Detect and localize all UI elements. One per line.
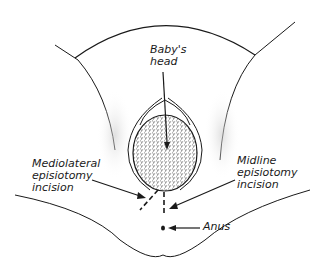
label-mediolateral-incision: Mediolateral episiotomy incision: [32, 158, 100, 194]
mediolateral-incision: [140, 190, 158, 210]
babys-head: [133, 115, 197, 191]
anus: [161, 226, 165, 231]
anatomy-illustration: [0, 0, 327, 263]
label-anus: Anus: [203, 221, 230, 233]
episiotomy-diagram: Baby's head Mediolateral episiotomy inci…: [0, 0, 327, 263]
buttocks-outline: [15, 190, 310, 257]
label-midline-incision: Midline episiotomy incision: [237, 155, 298, 191]
label-babys-head: Baby's head: [150, 44, 187, 68]
